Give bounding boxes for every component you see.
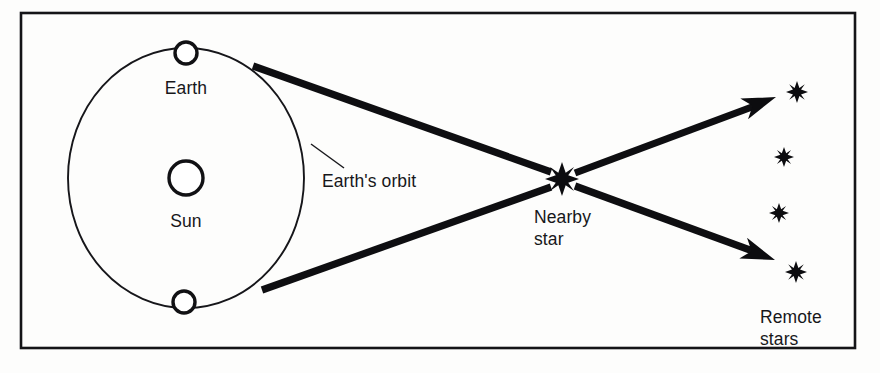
remote-star-icon [785, 261, 807, 283]
parallax-diagram-figure: Earth Sun Earth's orbit Nearby star Remo… [0, 0, 880, 373]
remote-stars-label-line2: stars [760, 329, 799, 349]
remote-star-icon [786, 81, 808, 103]
lower-sight-line [262, 187, 551, 290]
sun-label: Sun [170, 211, 201, 231]
earths-orbit-label: Earth's orbit [322, 171, 416, 191]
remote-stars-label-line1: Remote [760, 307, 822, 327]
sun-circle [169, 161, 203, 195]
remote-star-icon [769, 203, 789, 223]
earth-circle-top [175, 42, 197, 64]
upper-arrowhead [740, 87, 780, 120]
remote-star-icon [774, 147, 794, 167]
nearby-star-icon [545, 162, 579, 196]
nearby-star-label-line1: Nearby [534, 207, 591, 227]
lower-arrowhead [739, 238, 779, 271]
lower-projection-line [575, 186, 758, 253]
earth-circle-bottom [173, 291, 195, 313]
upper-projection-line [575, 104, 760, 173]
earth-label: Earth [165, 78, 207, 98]
upper-sight-line [253, 66, 551, 172]
earths-orbit-leader-line [311, 144, 344, 168]
figure-border [21, 13, 855, 348]
nearby-star-label-line2: star [534, 229, 564, 249]
diagram-canvas: Earth Sun Earth's orbit Nearby star Remo… [0, 0, 880, 373]
